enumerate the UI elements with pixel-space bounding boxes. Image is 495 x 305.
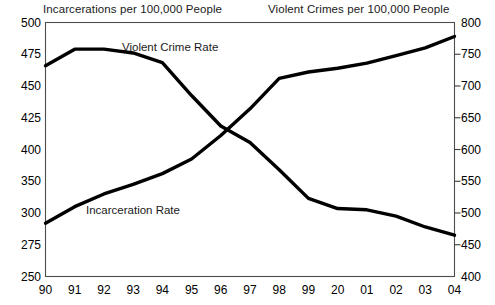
- x-axis-tick-label: 02: [381, 284, 411, 296]
- x-axis-tick-label: 96: [206, 284, 236, 296]
- x-axis-tick-label: 04: [440, 284, 470, 296]
- x-axis-tick-label: 97: [235, 284, 265, 296]
- x-axis-tick-label: 01: [352, 284, 382, 296]
- x-axis-tick-label: 95: [177, 284, 207, 296]
- x-axis-tick-label: 93: [118, 284, 148, 296]
- chart-container: Incarcerations per 100,000 People Violen…: [0, 0, 495, 305]
- x-axis-tick-label: 99: [293, 284, 323, 296]
- x-axis-tick-label: 91: [60, 284, 90, 296]
- x-axis-labels: 909192939495969798992001020304: [0, 0, 495, 305]
- series-annotation-incarceration-rate: Incarceration Rate: [86, 204, 180, 216]
- x-axis-tick-label: 94: [147, 284, 177, 296]
- x-axis-tick-label: 98: [264, 284, 294, 296]
- series-annotation-violent-crime-rate: Violent Crime Rate: [122, 41, 218, 53]
- x-axis-tick-label: 20: [323, 284, 353, 296]
- x-axis-tick-label: 90: [31, 284, 61, 296]
- x-axis-tick-label: 03: [410, 284, 440, 296]
- x-axis-tick-label: 92: [89, 284, 119, 296]
